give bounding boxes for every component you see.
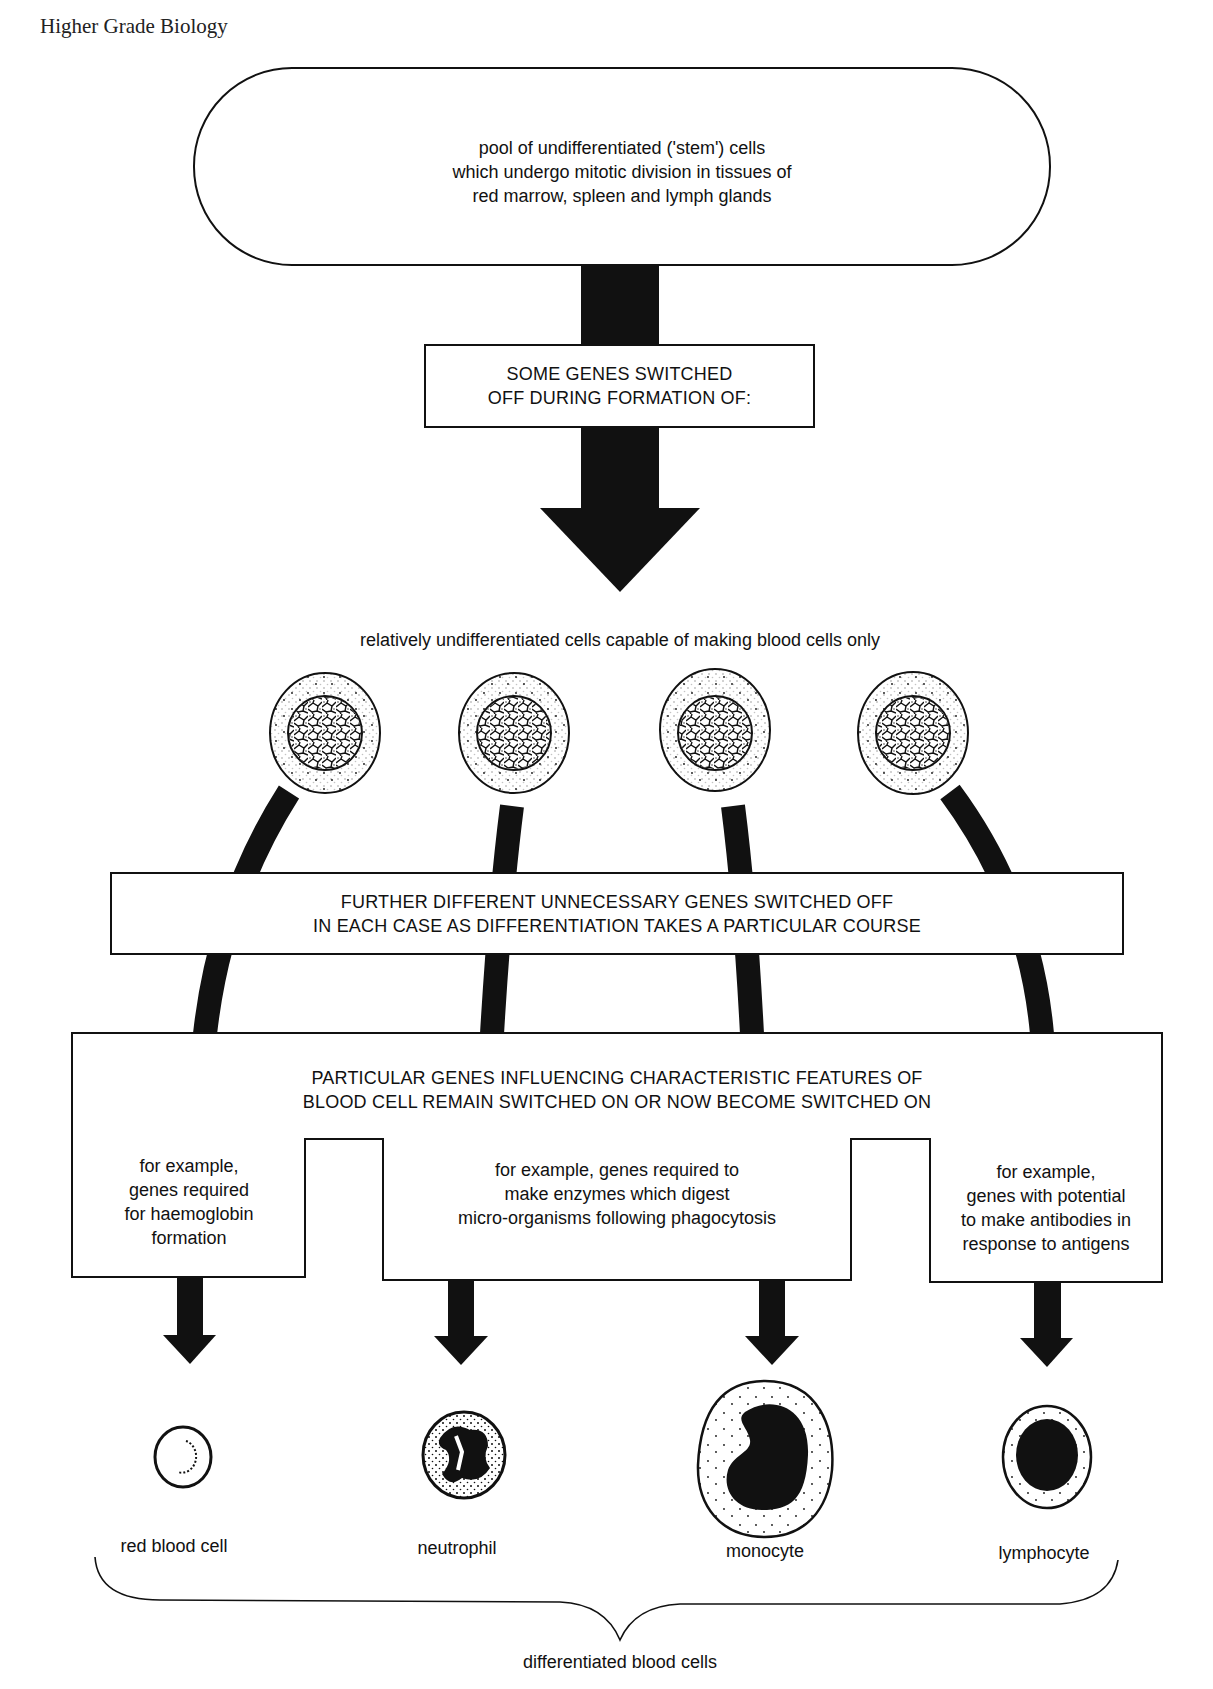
label-monocyte: monocyte [665, 1541, 865, 1562]
step3-box-heading: PARTICULAR GENES INFLUENCING CHARACTERIS… [72, 1066, 1162, 1114]
output-arrow-1 [163, 1277, 216, 1364]
output-arrow-4 [1020, 1282, 1073, 1367]
red-blood-cell-icon [155, 1427, 211, 1487]
progenitor-cell-1 [270, 673, 380, 793]
lymphocyte-icon [1003, 1406, 1091, 1508]
gene-switching-diagram [0, 0, 1213, 1689]
step1-box-text: SOME GENES SWITCHED OFF DURING FORMATION… [425, 362, 814, 410]
bracket-label: differentiated blood cells [470, 1652, 770, 1673]
stem-pool-text: pool of undifferentiated ('stem') cells … [322, 136, 922, 208]
output-arrow-2 [434, 1280, 488, 1365]
example-phagocytosis: for example, genes required to make enzy… [384, 1158, 850, 1230]
neutrophil-icon [423, 1412, 505, 1498]
output-arrow-3 [745, 1280, 799, 1365]
label-neutrophil: neutrophil [357, 1538, 557, 1559]
progenitor-cell-4 [858, 672, 968, 794]
progenitor-cell-2 [459, 673, 569, 793]
example-antibodies: for example, genes with potential to mak… [931, 1160, 1161, 1256]
step2-box-text: FURTHER DIFFERENT UNNECESSARY GENES SWIT… [111, 890, 1123, 938]
monocyte-icon [698, 1381, 832, 1537]
example-haemoglobin: for example, genes required for haemoglo… [74, 1154, 304, 1250]
progenitor-cell-3 [660, 669, 770, 791]
label-lymphocyte: lymphocyte [944, 1543, 1144, 1564]
grouping-bracket [95, 1557, 1118, 1640]
progenitor-caption: relatively undifferentiated cells capabl… [270, 628, 970, 652]
label-red-blood-cell: red blood cell [74, 1536, 274, 1557]
main-down-arrow [540, 265, 700, 592]
